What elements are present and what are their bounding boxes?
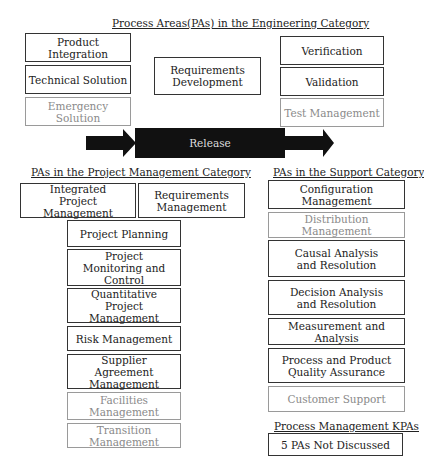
box-emergency-solution: Emergency Solution — [25, 97, 131, 126]
box-product-integration: Product Integration — [25, 33, 131, 62]
box-requirements-management: Requirements Management — [138, 183, 245, 218]
release-label: Release — [135, 128, 285, 158]
box-verification: Verification — [280, 36, 384, 65]
box-decision-analysis-and-resolution: Decision Analysis and Resolution — [268, 280, 405, 315]
box-process-and-product-quality-assurance: Process and Product Quality Assurance — [268, 348, 405, 383]
support-category-title: PAs in the Support Category — [273, 166, 424, 178]
box-5-pas-not-discussed: 5 PAs Not Discussed — [268, 433, 403, 456]
box-facilities-management: Facilities Management — [67, 392, 181, 420]
box-supplier-agreement-management: Supplier Agreement Management — [67, 354, 181, 389]
box-project-monitoring-and-control: Project Monitoring and Control — [67, 249, 181, 286]
box-quantitative-project-management: Quantitative Project Management — [67, 288, 181, 323]
box-technical-solution: Technical Solution — [25, 65, 131, 94]
box-measurement-and-analysis: Measurement and Analysis — [268, 318, 405, 345]
box-causal-analysis-and-resolution: Causal Analysis and Resolution — [268, 240, 405, 277]
box-requirements-development: Requirements Development — [154, 57, 261, 95]
engineering-category-title: Process Areas(PAs) in the Engineering Ca… — [112, 17, 369, 29]
project-management-category-title: PAs in the Project Management Category — [31, 166, 251, 178]
process-management-title: Process Management KPAs — [274, 420, 419, 432]
box-validation: Validation — [280, 67, 384, 96]
box-distribution-management: Distribution Management — [268, 212, 405, 238]
box-integrated-project-management: Integrated Project Management — [20, 183, 136, 218]
box-customer-support: Customer Support — [268, 386, 405, 412]
box-risk-management: Risk Management — [67, 326, 181, 351]
box-project-planning: Project Planning — [67, 220, 181, 247]
box-transition-management: Transition Management — [67, 423, 181, 448]
box-configuration-management: Configuration Management — [268, 180, 405, 209]
box-test-management: Test Management — [280, 98, 384, 127]
